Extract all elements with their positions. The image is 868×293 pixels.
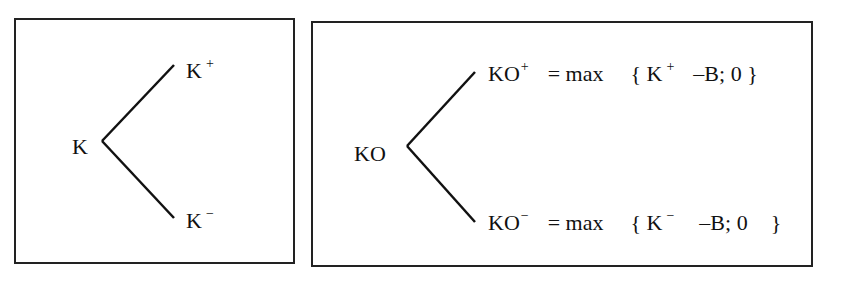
- node-ko-up: KO+ = max { K+ –B; 0 }: [488, 63, 758, 85]
- node-ko-up-base: KO: [488, 61, 520, 86]
- node-ko-down-base: KO: [488, 210, 520, 235]
- node-ko-up-arg-base: K: [647, 61, 663, 86]
- node-ko-up-rest: –B; 0: [693, 61, 741, 86]
- node-ko-up-open-brace: {: [630, 61, 641, 86]
- node-k-up: K+: [186, 60, 214, 82]
- node-ko-up-close-brace: }: [747, 61, 758, 86]
- node-ko-down-rest: –B; 0: [699, 210, 747, 235]
- node-ko-root: KO: [354, 143, 386, 165]
- node-ko-down-arg-base: K: [647, 210, 663, 235]
- node-ko-up-arg-sup: +: [666, 59, 674, 74]
- node-k-up-sup: +: [206, 56, 214, 71]
- node-k-up-base: K: [186, 58, 202, 83]
- node-k-down: K−: [186, 210, 214, 232]
- node-k-down-base: K: [186, 208, 202, 233]
- node-ko-down-sup: −: [521, 208, 529, 223]
- node-ko-up-eq: = max: [548, 61, 604, 86]
- node-ko-down: KO− = max { K− –B; 0 }: [488, 212, 781, 234]
- node-ko-up-sup: +: [521, 59, 529, 74]
- binomial-tree-k-panel: [14, 18, 295, 264]
- node-ko-down-open-brace: {: [630, 210, 641, 235]
- node-ko-down-arg-sup: −: [666, 208, 674, 223]
- node-k-down-sup: −: [206, 206, 214, 221]
- node-ko-down-close-brace: }: [771, 210, 782, 235]
- node-ko-down-eq: = max: [548, 210, 604, 235]
- node-k-root: K: [72, 136, 88, 158]
